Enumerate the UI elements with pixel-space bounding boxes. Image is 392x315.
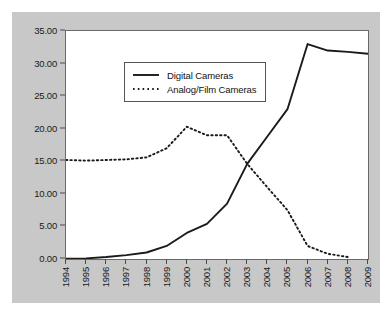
x-tick-label: 2002	[221, 267, 232, 287]
x-tick-label: 2000	[181, 267, 192, 287]
x-tick-label: 2003	[241, 267, 252, 287]
x-tick-mark	[226, 259, 227, 264]
x-tick-mark	[307, 259, 308, 264]
x-tick-label: 1999	[161, 267, 172, 287]
y-tick-label: 30.00	[34, 57, 57, 68]
legend-label-analog-film-cameras: Analog/Film Cameras	[167, 84, 256, 95]
legend-swatch-dotted-icon	[132, 84, 160, 94]
x-tick-mark	[367, 259, 368, 264]
plot-area: Digital Cameras Analog/Film Cameras	[65, 30, 369, 260]
x-tick-label: 1998	[141, 267, 152, 287]
x-tick-mark	[166, 259, 167, 264]
x-tick-mark	[65, 259, 66, 264]
chart-legend: Digital Cameras Analog/Film Cameras	[124, 62, 266, 102]
y-tick-label: 10.00	[34, 187, 57, 198]
x-tick-mark	[186, 259, 187, 264]
legend-item-analog-film-cameras: Analog/Film Cameras	[132, 82, 256, 96]
x-tick-label: 2001	[201, 267, 212, 287]
x-tick-mark	[146, 259, 147, 264]
x-tick-mark	[246, 259, 247, 264]
x-tick-mark	[105, 259, 106, 264]
x-tick-label: 2008	[342, 267, 353, 287]
y-tick-label: 15.00	[34, 155, 57, 166]
x-tick-mark	[85, 259, 86, 264]
legend-swatch-solid-icon	[132, 70, 160, 80]
x-tick-label: 2006	[302, 267, 313, 287]
x-tick-label: 1997	[120, 267, 131, 287]
x-tick-label: 1994	[60, 267, 71, 287]
series-line-analog-film-cameras	[66, 127, 348, 257]
legend-label-digital-cameras: Digital Cameras	[167, 70, 233, 81]
x-tick-mark	[266, 259, 267, 264]
y-tick-label: 20.00	[34, 122, 57, 133]
x-tick-label: 2007	[322, 267, 333, 287]
x-tick-mark	[125, 259, 126, 264]
x-tick-mark	[347, 259, 348, 264]
x-tick-label: 1995	[80, 267, 91, 287]
x-tick-label: 2004	[261, 267, 272, 287]
x-tick-label: 2005	[281, 267, 292, 287]
x-tick-mark	[206, 259, 207, 264]
y-tick-label: 35.00	[34, 25, 57, 36]
y-axis: 0.005.0010.0015.0020.0025.0030.0035.00	[12, 12, 65, 303]
x-tick-label: 1996	[100, 267, 111, 287]
y-tick-label: 0.00	[39, 253, 57, 264]
y-tick-label: 25.00	[34, 90, 57, 101]
x-tick-mark	[286, 259, 287, 264]
x-tick-mark	[327, 259, 328, 264]
x-axis: 1994199519961997199819992000200120022003…	[65, 259, 367, 303]
legend-item-digital-cameras: Digital Cameras	[132, 68, 256, 82]
chart-figure: 0.005.0010.0015.0020.0025.0030.0035.00 D…	[12, 12, 380, 303]
x-tick-label: 2009	[362, 267, 373, 287]
y-tick-label: 5.00	[39, 220, 57, 231]
